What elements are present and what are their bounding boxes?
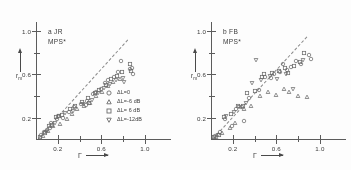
- y-tick-label: 0.2: [197, 115, 206, 122]
- x-tick-minor: [255, 136, 256, 142]
- data-point: [99, 86, 104, 91]
- x-tick: [58, 135, 59, 144]
- data-point: [66, 109, 71, 114]
- data-point: [298, 60, 303, 65]
- data-point: [64, 117, 69, 122]
- y-axis-arrow-b: [195, 52, 196, 72]
- data-point: [86, 96, 91, 101]
- data-point: [300, 58, 305, 63]
- data-point: [122, 80, 127, 85]
- data-point: [229, 123, 234, 128]
- data-point: [260, 74, 265, 79]
- legend-label: ΔL=-6 dB: [117, 97, 140, 106]
- y-axis-line-b: [211, 22, 212, 140]
- data-point: [113, 77, 118, 82]
- legend-marker-circle-icon: [106, 90, 112, 96]
- data-point: [75, 107, 80, 112]
- data-point: [93, 89, 98, 94]
- data-point: [117, 76, 122, 81]
- data-point: [87, 100, 92, 105]
- x-tick-label: 1.0: [140, 145, 149, 152]
- y-axis-arrow-a: [20, 52, 21, 72]
- x-tick-label: 0.2: [53, 145, 62, 152]
- data-point: [67, 107, 72, 112]
- x-axis-label-a: Γ: [78, 152, 108, 159]
- data-point: [130, 72, 135, 77]
- legend-entry: ΔL= 6 dB: [106, 106, 142, 115]
- data-point: [309, 57, 314, 62]
- y-tick-label: 0.6: [197, 71, 206, 78]
- data-point: [127, 61, 132, 66]
- legend-marker-square-icon: [106, 108, 112, 114]
- data-point: [275, 76, 280, 81]
- data-point: [285, 68, 290, 73]
- data-point: [244, 91, 249, 96]
- data-point: [121, 75, 126, 80]
- y-tick-label: 0.6: [22, 71, 31, 78]
- data-point: [293, 59, 298, 64]
- y-tick: [32, 74, 41, 75]
- data-point: [57, 121, 62, 126]
- legend-marker-triangle-up-icon: [106, 99, 112, 105]
- data-point: [90, 92, 95, 97]
- data-point: [287, 89, 292, 94]
- x-axis-line-b: [211, 139, 346, 140]
- data-point: [127, 66, 132, 71]
- x-axis-label-b: Γ: [253, 152, 283, 159]
- data-point: [286, 71, 291, 76]
- data-point: [72, 105, 77, 110]
- legend-entry: ΔL=0: [106, 88, 142, 97]
- data-point: [129, 65, 134, 70]
- data-point: [120, 70, 125, 75]
- y-tick-minor: [34, 53, 40, 54]
- x-tick: [233, 135, 234, 144]
- y-tick-minor: [34, 96, 40, 97]
- data-point: [88, 100, 93, 105]
- data-point: [258, 94, 263, 99]
- y-axis-line-a: [36, 22, 37, 140]
- y-tick: [207, 118, 216, 119]
- data-point: [299, 61, 304, 66]
- data-point: [78, 101, 83, 106]
- legend-label: ΔL= 6 dB: [117, 106, 140, 115]
- data-point: [307, 52, 312, 57]
- y-tick-minor: [209, 96, 215, 97]
- data-point: [250, 81, 255, 86]
- data-point: [224, 113, 229, 118]
- data-point: [262, 72, 267, 77]
- plot-area-b: 0.20.61.00.20.61.0: [211, 22, 333, 140]
- data-point: [291, 63, 296, 68]
- data-point: [296, 94, 301, 99]
- data-point: [301, 50, 306, 55]
- x-tick-label: 0.6: [97, 145, 106, 152]
- data-point: [111, 80, 116, 85]
- data-point: [115, 70, 120, 75]
- data-point: [81, 104, 86, 109]
- x-axis-arrow-a: [86, 155, 108, 156]
- y-tick-label: 1.0: [22, 27, 31, 34]
- data-point: [112, 74, 117, 79]
- x-axis-arrow-b: [261, 155, 283, 156]
- data-point: [97, 87, 102, 92]
- data-point: [79, 99, 84, 104]
- data-point: [253, 58, 258, 63]
- x-tick-label: 0.6: [272, 145, 281, 152]
- data-point: [69, 111, 74, 116]
- y-tick: [207, 31, 216, 32]
- data-point: [304, 95, 309, 100]
- panel-b: b FB MPS* rm Γ 0.20.61.00.20.61.0: [175, 0, 351, 170]
- data-point: [128, 69, 133, 74]
- data-point: [274, 93, 279, 98]
- x-tick-minor: [298, 136, 299, 142]
- data-point: [222, 115, 227, 120]
- x-tick: [101, 135, 102, 144]
- data-point: [100, 89, 105, 94]
- data-point: [259, 77, 264, 82]
- data-point: [80, 101, 85, 106]
- y-tick-minor: [209, 53, 215, 54]
- data-point: [277, 70, 282, 75]
- data-point: [92, 91, 97, 96]
- data-point: [241, 119, 246, 124]
- y-tick-label: 1.0: [197, 27, 206, 34]
- data-point: [96, 91, 101, 96]
